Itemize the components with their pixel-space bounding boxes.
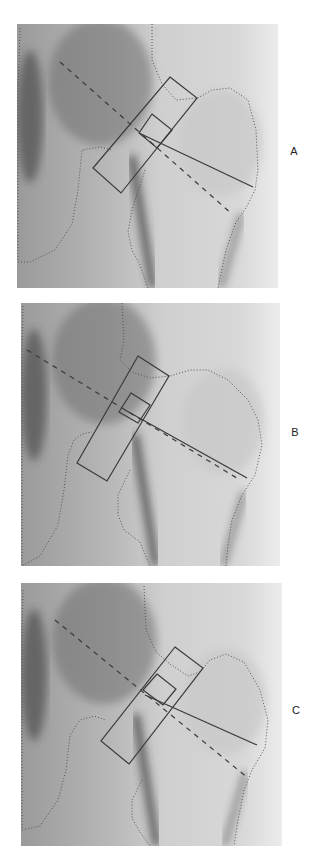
panel-label-a: A	[287, 145, 301, 157]
panel-c	[21, 583, 282, 846]
panel-label-c: C	[289, 704, 303, 716]
pelvis-edge-density	[21, 329, 47, 461]
pelvis-edge-density	[17, 50, 43, 182]
panel-a	[17, 24, 278, 288]
panel-b	[21, 303, 280, 566]
pelvis-density-region	[48, 24, 152, 145]
pelvis-edge-density	[21, 609, 47, 741]
femoral-head-region	[182, 369, 265, 474]
femoral-head-region	[183, 649, 267, 754]
pelvis-density-region	[52, 583, 156, 704]
panel-label-b: B	[288, 426, 302, 438]
pelvis-density-region	[52, 303, 156, 424]
